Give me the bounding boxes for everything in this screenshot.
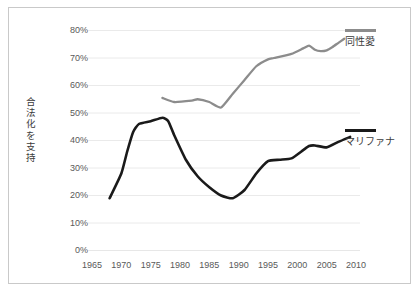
legend-swatch-marijuana (345, 129, 376, 132)
chart-canvas: 合法化を支持 0%10%20%30%40%50%60%70%80% 196519… (0, 0, 420, 293)
series-line-marijuana (110, 118, 351, 199)
series-line-homosexuality (162, 39, 344, 108)
series-lines (110, 39, 351, 199)
gridlines (88, 31, 360, 251)
legend-label-homosexuality: 同性愛 (345, 36, 375, 48)
legend-label-marijuana: マリファナ (345, 136, 395, 148)
legend-swatch-homosexuality (345, 29, 376, 32)
